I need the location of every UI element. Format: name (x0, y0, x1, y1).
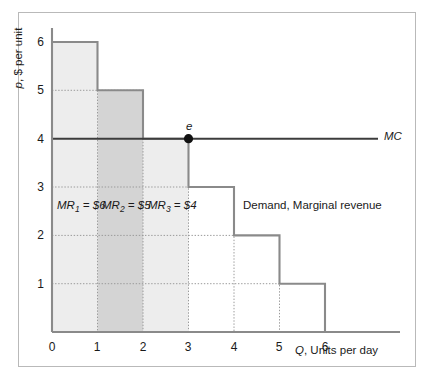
y-axis-title-units: , $ per unit (12, 28, 24, 82)
y-axis-title: p, $ per unit (12, 10, 24, 106)
mr-label-3-value: = $4 (171, 199, 197, 211)
equilibrium-point-label: e (186, 120, 192, 132)
y-axis-title-variable: p (12, 82, 24, 88)
x-axis-title-units: , Units per day (304, 344, 378, 356)
mr-label-2: MR2 = $5 (102, 199, 151, 214)
equilibrium-point-dot (184, 134, 193, 143)
x-tick-2: 2 (135, 341, 151, 353)
y-tick-1: 1 (30, 278, 44, 290)
x-tick-4: 4 (226, 341, 242, 353)
mr-label-2-value: = $5 (125, 199, 151, 211)
y-tick-4: 4 (30, 133, 44, 145)
y-tick-2: 2 (30, 229, 44, 241)
x-axis-title: Q, Units per day (295, 344, 378, 356)
mr-label-3-name: MR (148, 199, 166, 211)
x-tick-0: 0 (44, 341, 60, 353)
x-axis-title-variable: Q (295, 344, 304, 356)
x-tick-5: 5 (271, 341, 287, 353)
mr-label-3: MR3 = $4 (148, 199, 197, 214)
mc-curve-label: MC (384, 130, 402, 142)
y-tick-5: 5 (30, 84, 44, 96)
mr-label-1-name: MR (57, 199, 75, 211)
mr-block-3-shade (143, 139, 189, 332)
x-tick-1: 1 (89, 341, 105, 353)
y-tick-6: 6 (30, 36, 44, 48)
y-tick-3: 3 (30, 181, 44, 193)
demand-curve-label: Demand, Marginal revenue (243, 199, 382, 211)
mr-label-2-name: MR (102, 199, 120, 211)
economics-step-demand-chart (0, 0, 431, 391)
mr-label-1: MR1 = $6 (57, 199, 106, 214)
x-tick-3: 3 (180, 341, 196, 353)
